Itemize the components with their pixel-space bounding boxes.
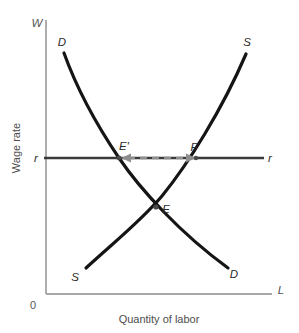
y-axis-title: Wage rate (10, 123, 22, 173)
point-e-prime-label: E′ (119, 140, 130, 152)
y-axis-symbol: W (32, 17, 44, 29)
point-f-label: F (190, 141, 198, 153)
x-axis-symbol: L (278, 284, 284, 296)
labor-market-chart: W L 0 D D S S r r E′ F E Wage rate Quant… (0, 0, 299, 333)
point-e-dot (153, 204, 158, 209)
figure-container: W L 0 D D S S r r E′ F E Wage rate Quant… (0, 0, 299, 333)
point-e-prime-dot (117, 156, 122, 161)
supply-top-label: S (243, 36, 251, 48)
supply-bottom-label: S (71, 271, 79, 283)
point-e-label: E (162, 203, 170, 215)
point-f-dot (194, 156, 198, 160)
chart-background (0, 0, 299, 333)
demand-top-label: D (58, 36, 66, 48)
demand-bottom-label: D (230, 268, 238, 280)
x-axis-title: Quantity of labor (119, 313, 200, 325)
origin-label: 0 (30, 299, 36, 311)
